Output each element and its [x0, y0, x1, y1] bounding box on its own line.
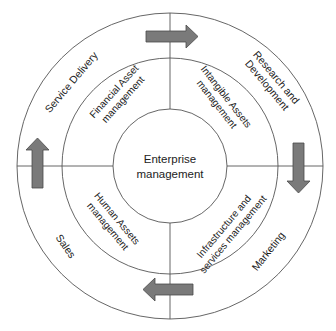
marketing-label: Marketing — [249, 229, 287, 273]
arrow-down-icon — [287, 143, 310, 193]
center-label-line2: management — [136, 168, 204, 180]
arrow-up-icon — [26, 138, 49, 188]
center-label-line1: Enterprise — [144, 153, 196, 165]
arrow-left-icon — [143, 278, 193, 301]
arrow-right-icon — [146, 25, 198, 48]
enterprise-management-diagram: Enterprise management Financial Asset ma… — [0, 0, 336, 331]
inner-circle — [113, 109, 227, 223]
sales-label: Sales — [54, 232, 79, 260]
service-delivery-label: Service Delivery — [42, 49, 100, 115]
